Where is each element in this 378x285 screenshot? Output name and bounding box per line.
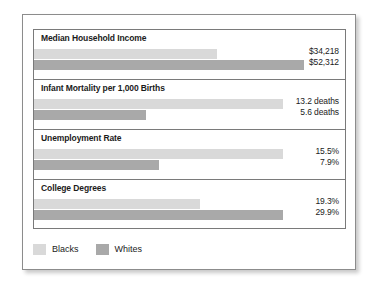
chart-row: Unemployment Rate 15.5% 7.9% bbox=[34, 130, 345, 180]
row-title: Infant Mortality per 1,000 Births bbox=[41, 83, 165, 93]
row-title: College Degrees bbox=[41, 183, 106, 193]
bar-group bbox=[34, 49, 345, 79]
legend-swatch-icon bbox=[96, 244, 109, 255]
chart-legend: Blacks Whites bbox=[33, 241, 154, 257]
bar-whites bbox=[34, 60, 304, 70]
chart-panel: Median Household Income $34,218 $52,312 … bbox=[33, 29, 346, 229]
legend-label: Blacks bbox=[52, 244, 79, 254]
bar-whites bbox=[34, 160, 159, 170]
legend-item-whites: Whites bbox=[96, 244, 143, 255]
legend-swatch-icon bbox=[33, 244, 46, 255]
value-whites: 5.6 deaths bbox=[300, 107, 339, 117]
bar-whites bbox=[34, 110, 146, 120]
legend-label: Whites bbox=[115, 244, 143, 254]
bar-blacks bbox=[34, 99, 283, 109]
bar-group bbox=[34, 149, 345, 179]
bar-group bbox=[34, 199, 345, 228]
chart-row: Median Household Income $34,218 $52,312 bbox=[34, 30, 345, 80]
chart-row: College Degrees 19.3% 29.9% bbox=[34, 180, 345, 228]
legend-item-blacks: Blacks bbox=[33, 244, 79, 255]
bar-blacks bbox=[34, 149, 283, 159]
value-blacks: $34,218 bbox=[309, 46, 339, 56]
figure-frame: Median Household Income $34,218 $52,312 … bbox=[22, 14, 356, 270]
value-blacks: 13.2 deaths bbox=[296, 96, 339, 106]
row-title: Median Household Income bbox=[41, 33, 146, 43]
bar-blacks bbox=[34, 199, 200, 209]
row-title: Unemployment Rate bbox=[41, 133, 121, 143]
chart-row: Infant Mortality per 1,000 Births 13.2 d… bbox=[34, 80, 345, 130]
value-whites: $52,312 bbox=[309, 57, 339, 67]
bar-blacks bbox=[34, 49, 217, 59]
value-whites: 7.9% bbox=[320, 157, 339, 167]
value-blacks: 15.5% bbox=[315, 146, 339, 156]
value-blacks: 19.3% bbox=[315, 196, 339, 206]
value-whites: 29.9% bbox=[315, 207, 339, 217]
bar-whites bbox=[34, 210, 283, 220]
